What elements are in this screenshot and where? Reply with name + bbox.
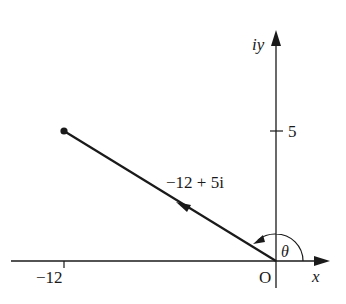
- x-axis-label: x: [311, 267, 320, 286]
- vector-direction-arrow-icon: [176, 202, 191, 212]
- angle-arc: [253, 234, 303, 261]
- y-tick-label: 5: [288, 122, 297, 141]
- x-axis-arrow-icon: [314, 256, 330, 266]
- vector-label: −12 + 5i: [166, 173, 224, 192]
- y-axis-label: iy: [252, 35, 265, 54]
- argand-diagram: iy x O −12 5 −12 + 5i θ: [0, 0, 346, 304]
- y-axis-arrow-icon: [271, 30, 281, 46]
- x-tick-label: −12: [36, 268, 63, 287]
- vector-endpoint-dot: [60, 127, 67, 134]
- angle-arc-arrow-icon: [253, 235, 265, 244]
- angle-label: θ: [281, 243, 289, 260]
- vector: [60, 127, 276, 261]
- vector-line: [64, 131, 276, 261]
- origin-label: O: [259, 268, 271, 287]
